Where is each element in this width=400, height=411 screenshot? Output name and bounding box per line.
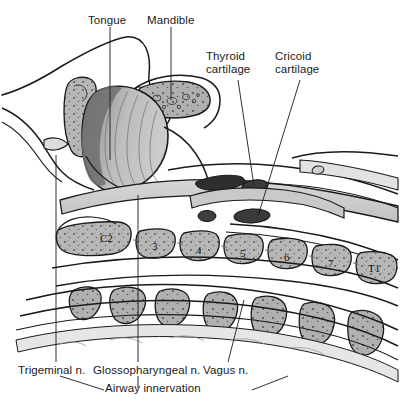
spinous-process-2 bbox=[110, 287, 146, 323]
label-cricoid-line2: cartilage bbox=[275, 63, 319, 75]
vertebral-bodies-row bbox=[56, 217, 397, 284]
label-cricoid-cartilage: Cricoid cartilage bbox=[275, 50, 337, 76]
vertebra-label-c7: 7 bbox=[328, 257, 334, 269]
anterior-neck-skin bbox=[292, 152, 398, 158]
vertebra-label-c2: C2 bbox=[100, 232, 113, 244]
label-tongue: Tongue bbox=[88, 14, 126, 27]
leader-airway-left bbox=[60, 376, 104, 390]
cricoid-cartilage bbox=[234, 208, 271, 224]
vertebra-c2 bbox=[56, 222, 131, 256]
vertebra-label-t1: T1 bbox=[368, 262, 380, 274]
label-vagus-nerve: Vagus n. bbox=[203, 364, 248, 377]
spinous-process-row bbox=[69, 287, 383, 355]
leader-airway-right bbox=[252, 376, 288, 390]
spinous-process-3 bbox=[155, 289, 189, 327]
vertebra-label-c5: 5 bbox=[240, 247, 246, 259]
label-mandible: Mandible bbox=[147, 14, 194, 27]
vertebra-label-c3: 3 bbox=[152, 240, 158, 252]
label-glossopharyngeal-nerve: Glossopharyngeal n. bbox=[93, 364, 200, 377]
label-thyroid-line2: cartilage bbox=[206, 63, 250, 75]
label-thyroid-cartilage: Thyroid cartilage bbox=[206, 50, 268, 76]
label-cricoid-line1: Cricoid bbox=[275, 50, 312, 62]
vertebra-label-c6: 6 bbox=[284, 251, 290, 263]
label-airway-innervation: Airway innervation bbox=[105, 382, 201, 395]
soft-palate bbox=[164, 127, 208, 180]
airway-innervation-figure: Tongue Mandible Thyroid cartilage Cricoi… bbox=[0, 0, 400, 411]
label-trigeminal-nerve: Trigeminal n. bbox=[18, 364, 85, 377]
label-thyroid-line1: Thyroid bbox=[206, 50, 245, 62]
leader-thyroid-cartilage bbox=[238, 80, 254, 186]
vertebra-label-c4: 4 bbox=[196, 244, 202, 256]
hyoid-bone bbox=[44, 138, 68, 150]
anatomy-illustration bbox=[0, 0, 400, 411]
arytenoid-cartilage bbox=[198, 211, 216, 222]
strap-muscles bbox=[300, 160, 398, 190]
